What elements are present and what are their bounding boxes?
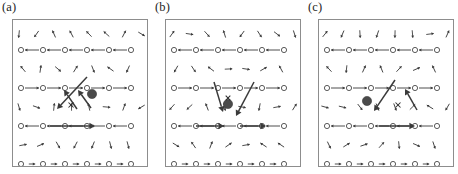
lattice-row-arrow — [117, 162, 123, 165]
lattice-site-circle — [62, 47, 67, 52]
lattice-site-circle — [368, 161, 373, 166]
displacement-arrow-up-right-short — [405, 89, 417, 110]
lattice-spin-arrow — [68, 30, 74, 38]
lattice-spin-arrow — [412, 142, 420, 148]
lattice-row-arrow — [335, 162, 341, 165]
lattice-spin-arrow — [38, 65, 42, 73]
lattice-spin-arrow — [361, 65, 367, 73]
lattice-spin-arrow — [17, 30, 21, 38]
lattice-spin-arrow — [222, 30, 227, 38]
lattice-row-arrow — [270, 162, 276, 165]
lattice-site-circle — [259, 85, 264, 90]
lattice-spin-arrow — [426, 32, 434, 36]
lattice-row-arrow — [222, 124, 236, 127]
lattice-spin-arrow — [204, 103, 209, 111]
lattice-site-circle — [171, 161, 176, 166]
displacement-arrow-right-horizontal-long — [379, 123, 415, 129]
lattice-row-arrow — [178, 86, 192, 89]
lattice-spin-arrow — [225, 142, 233, 149]
lattice-spin-arrow — [326, 141, 332, 149]
lattice-spin-arrow — [55, 141, 61, 149]
lattice-row-arrow — [47, 48, 61, 51]
lattice-spin-arrow — [321, 105, 329, 110]
lattice-spin-arrow — [208, 141, 213, 149]
lattice-site-circle — [171, 85, 176, 90]
lattice-spin-arrow — [54, 65, 62, 72]
lattice-site-circle — [62, 161, 67, 166]
lattice-row-arrow — [353, 124, 367, 127]
lattice-spin-arrow — [173, 65, 179, 73]
lattice-spin-arrow — [103, 105, 111, 109]
lattice-row-arrow — [266, 124, 280, 127]
lattice-site-circle — [390, 161, 395, 166]
lattice-spin-arrow — [36, 142, 44, 148]
lattice-row-arrow — [397, 86, 411, 89]
panel-c: (c) — [306, 0, 458, 174]
lattice-spin-arrow — [242, 67, 250, 71]
lattice-row-arrow — [222, 86, 236, 89]
lattice-row-arrow — [375, 48, 389, 51]
lattice-row-arrow — [69, 48, 83, 51]
lattice-row-arrow — [113, 86, 127, 89]
lattice-site-circle — [215, 47, 220, 52]
lattice-row-arrow — [91, 86, 105, 89]
lattice-row-arrow — [419, 48, 433, 51]
lattice-site-circle — [324, 85, 329, 90]
lattice-spin-arrow — [32, 104, 40, 109]
lattice-spin-arrow — [340, 30, 346, 38]
lattice-site-circle — [128, 47, 133, 52]
lattice-site-circle — [106, 161, 111, 166]
lattice-site-circle — [434, 161, 439, 166]
lattice-row-arrow — [222, 48, 236, 51]
lattice-site-circle — [193, 161, 198, 166]
lattice-spin-arrow — [138, 31, 146, 37]
lattice-site-circle — [368, 123, 373, 128]
lattice-row-arrow — [419, 124, 433, 127]
lattice-spin-arrow — [358, 30, 361, 38]
lattice-spin-arrow — [186, 103, 194, 110]
lattice-site-circle — [171, 123, 176, 128]
lattice-spin-arrow — [395, 65, 402, 73]
lattice-row-arrow — [353, 48, 367, 51]
lattice-row-arrow — [73, 162, 79, 165]
lattice-spin-arrow — [103, 30, 111, 37]
lattice-spin-arrow — [72, 141, 78, 149]
lattice-site-circle — [193, 85, 198, 90]
lattice-row-arrow — [397, 48, 411, 51]
lattice-row-arrow — [182, 162, 188, 165]
lattice-site-circle — [106, 47, 111, 52]
lattice-site-circle — [346, 161, 351, 166]
lattice-spin-arrow — [121, 103, 126, 111]
lattice-spin-arrow — [242, 143, 250, 147]
displacement-arrow-down-left-to-circle — [374, 80, 395, 111]
lattice-site-circle — [281, 85, 286, 90]
lattice-spin-arrow — [273, 105, 281, 109]
lattice-spin-arrow — [126, 141, 131, 149]
displacement-arrow-right-horizontal-left — [196, 123, 224, 129]
plot-frame-b — [165, 19, 301, 167]
lattice-spin-arrow — [379, 65, 385, 73]
lattice-spin-arrow — [357, 103, 364, 111]
lattice-row-arrow — [25, 124, 39, 127]
lattice-row-arrow — [266, 86, 280, 89]
displacement-arrow-up-right-from-circle — [236, 82, 254, 116]
panel-label-c: (c) — [308, 0, 322, 15]
lattice-site-circle — [128, 161, 133, 166]
lattice-spin-arrow — [207, 66, 215, 73]
lattice-site-circle — [62, 85, 67, 90]
panel-label-b: (b) — [155, 0, 170, 15]
lattice-spin-arrow — [431, 141, 436, 149]
lattice-site-circle — [40, 85, 45, 90]
lattice-row-arrow — [266, 48, 280, 51]
lattice-spin-arrow — [260, 142, 268, 149]
lattice-site-circle — [237, 161, 242, 166]
lattice-spin-arrow — [51, 30, 57, 38]
lattice-row-arrow — [375, 86, 389, 89]
lattice-site-circle — [434, 85, 439, 90]
lattice-spin-arrow — [343, 142, 351, 149]
panel-label-a: (a) — [2, 0, 16, 15]
plot-frame-c — [318, 19, 454, 167]
displacement-arrow-down-right-into-circle — [214, 82, 224, 112]
lattice-site-circle — [368, 47, 373, 52]
lattice-site-circle — [40, 47, 45, 52]
